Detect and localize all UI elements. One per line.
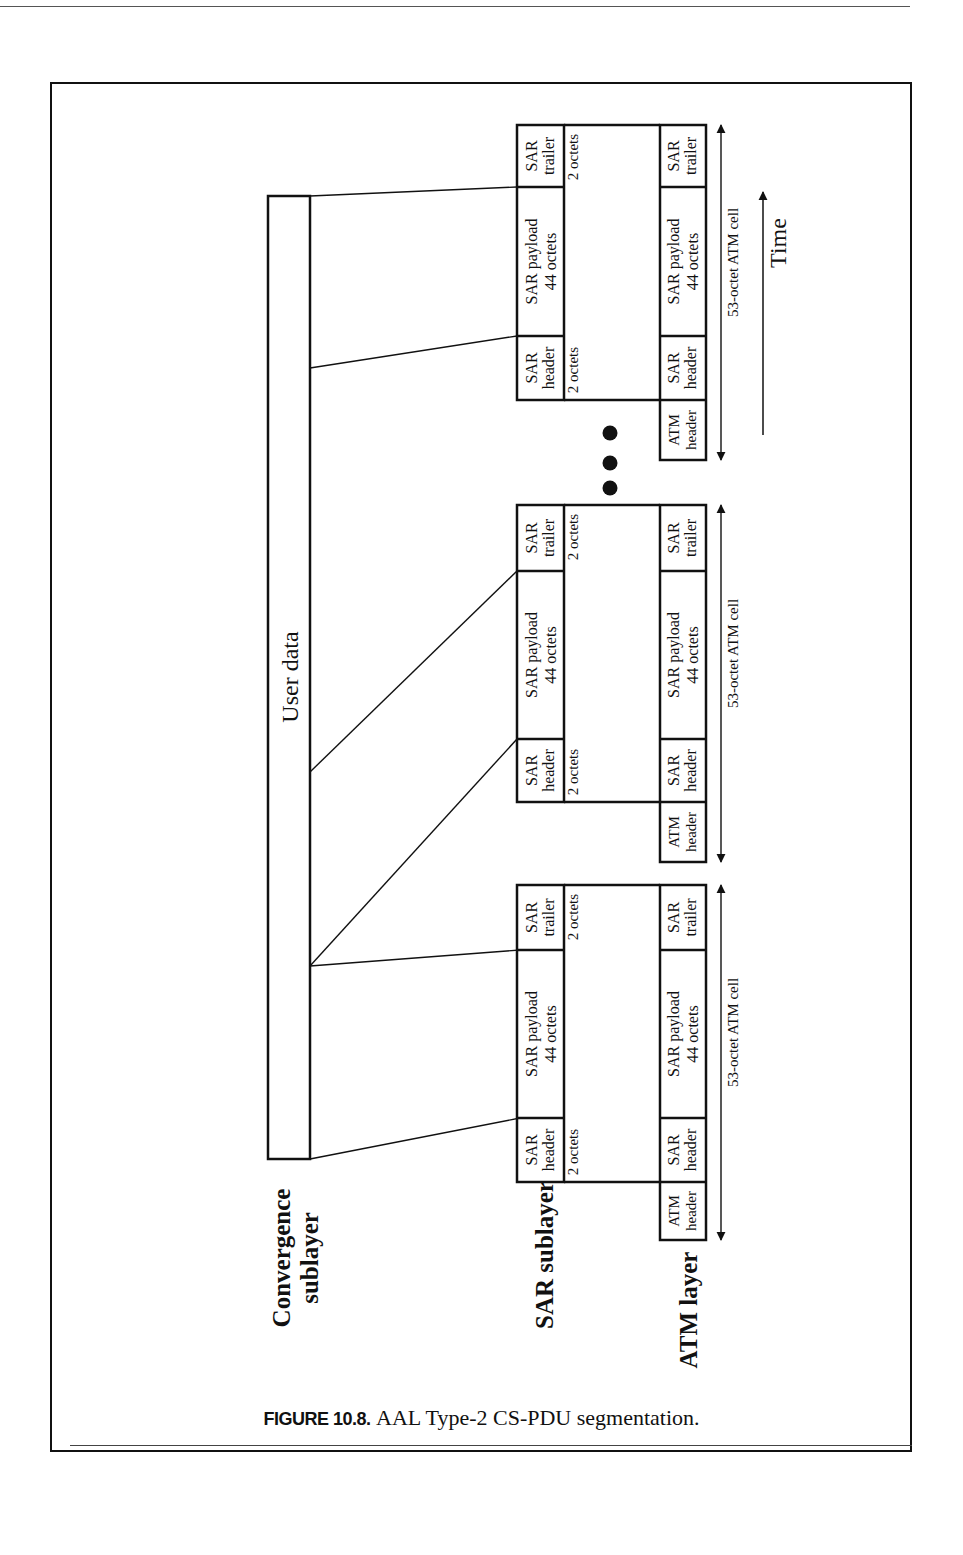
atm-cell: SARtrailerSAR payload44 octetsSARheaderA… xyxy=(660,125,706,460)
ellipsis-dots xyxy=(603,426,618,496)
atm-sar-header-label: header xyxy=(682,749,699,792)
cell-size-arrow: 53-octet ATM cell xyxy=(721,505,741,862)
sar-header-label: header xyxy=(540,346,557,389)
sar-header-label: SAR xyxy=(523,1134,540,1165)
atm-sar-payload-size: 44 octets xyxy=(684,626,701,683)
sar-header-label: SAR xyxy=(523,755,540,786)
atm-header-label: header xyxy=(683,1191,699,1231)
atm-sar-trailer-label: trailer xyxy=(682,518,699,557)
atm-sar-header-label: SAR xyxy=(665,352,682,383)
sar-trailer-label: SAR xyxy=(523,522,540,553)
cells-container: SARtrailerSAR payload44 octetsSARheader2… xyxy=(517,125,741,1240)
atm-sar-payload-size: 44 octets xyxy=(684,1005,701,1062)
sar-header-size: 2 octets xyxy=(565,749,581,795)
atm-cell: SARtrailerSAR payload44 octetsSARheaderA… xyxy=(660,505,706,862)
sar-header-size: 2 octets xyxy=(565,347,581,393)
sar-payload-label: SAR payload xyxy=(523,991,541,1077)
user-data-bar: User data xyxy=(268,196,310,1159)
atm-cell: SARtrailerSAR payload44 octetsSARheaderA… xyxy=(660,885,706,1240)
sar-header-label: SAR xyxy=(523,352,540,383)
sar-sublayer-label: SAR sublayer xyxy=(531,1181,558,1329)
sar-trailer-label: trailer xyxy=(540,898,557,937)
convergence-sublayer-label-line1: Convergence xyxy=(268,1189,295,1328)
cell-size-label: 53-octet ATM cell xyxy=(725,208,741,317)
sar-trailer-size: 2 octets xyxy=(565,134,581,180)
sar-payload-size: 44 octets xyxy=(542,233,559,290)
sar-payload-label: SAR payload xyxy=(523,219,541,305)
sar-trailer-label: trailer xyxy=(540,136,557,175)
atm-header-label: ATM xyxy=(666,816,682,848)
cell-group-1: SARtrailerSAR payload44 octetsSARheader2… xyxy=(517,125,741,460)
sar-trailer-label: SAR xyxy=(523,902,540,933)
atm-sar-header-label: SAR xyxy=(665,755,682,786)
sar-pdu: SARtrailerSAR payload44 octetsSARheader2… xyxy=(517,885,660,1182)
sar-header-size: 2 octets xyxy=(565,1129,581,1175)
atm-sar-payload-label: SAR payload xyxy=(665,219,683,305)
atm-layer-label: ATM layer xyxy=(675,1252,702,1369)
sar-pdu: SARtrailerSAR payload44 octetsSARheader2… xyxy=(517,505,660,802)
atm-sar-trailer-label: trailer xyxy=(682,136,699,175)
caption-rule xyxy=(70,1445,912,1446)
cell-group-2: SARtrailerSAR payload44 octetsSARheader2… xyxy=(517,505,741,862)
atm-sar-trailer-label: SAR xyxy=(665,140,682,171)
sar-trailer-size: 2 octets xyxy=(565,514,581,560)
atm-sar-payload-label: SAR payload xyxy=(665,991,683,1077)
atm-sar-trailer-label: SAR xyxy=(665,522,682,553)
sar-trailer-label: SAR xyxy=(523,140,540,171)
atm-sar-header-label: header xyxy=(682,1128,699,1171)
cell-size-arrow: 53-octet ATM cell xyxy=(721,125,741,460)
sar-header-label: header xyxy=(540,749,557,792)
sar-pdu: SARtrailerSAR payload44 octetsSARheader2… xyxy=(517,125,660,400)
sar-payload-size: 44 octets xyxy=(542,1005,559,1062)
user-data-label: User data xyxy=(277,631,303,723)
cell-size-label: 53-octet ATM cell xyxy=(725,978,741,1087)
sar-header-label: header xyxy=(540,1128,557,1171)
atm-header-label: ATM xyxy=(666,1195,682,1227)
atm-header-label: header xyxy=(683,812,699,852)
sar-trailer-label: trailer xyxy=(540,518,557,557)
atm-sar-trailer-label: trailer xyxy=(682,898,699,937)
time-arrow: Time xyxy=(763,192,791,435)
convergence-sublayer-label-line2: sublayer xyxy=(296,1212,323,1304)
atm-sar-header-label: SAR xyxy=(665,1134,682,1165)
atm-header-label: header xyxy=(683,410,699,450)
atm-header-label: ATM xyxy=(666,414,682,446)
atm-sar-header-label: header xyxy=(682,346,699,389)
sar-payload-label: SAR payload xyxy=(523,612,541,698)
segmentation-diagram: User data SARtrailerSAR payload44 octets… xyxy=(0,0,963,1555)
time-label: Time xyxy=(765,218,791,268)
figure-number: FIGURE 10.8. xyxy=(263,1409,370,1429)
sar-payload-size: 44 octets xyxy=(542,626,559,683)
sar-trailer-size: 2 octets xyxy=(565,894,581,940)
atm-sar-trailer-label: SAR xyxy=(665,902,682,933)
atm-sar-payload-size: 44 octets xyxy=(684,233,701,290)
atm-sar-payload-label: SAR payload xyxy=(665,612,683,698)
segmentation-lines xyxy=(310,187,520,1159)
figure-caption-text: AAL Type-2 CS-PDU segmentation. xyxy=(376,1405,700,1430)
cell-size-label: 53-octet ATM cell xyxy=(725,599,741,708)
figure-caption: FIGURE 10.8. AAL Type-2 CS-PDU segmentat… xyxy=(0,1405,963,1431)
cell-size-arrow: 53-octet ATM cell xyxy=(721,885,741,1240)
